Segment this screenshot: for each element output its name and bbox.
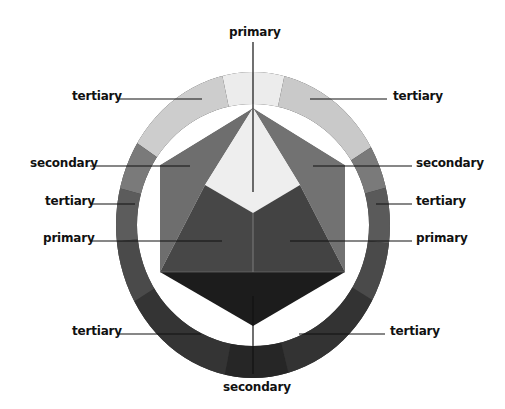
- label-bottom-left-tertiary: tertiary: [72, 324, 122, 338]
- label-left-primary: primary: [43, 231, 95, 245]
- label-top-left-tertiary: tertiary: [72, 89, 122, 103]
- label-bottom-right-tertiary: tertiary: [390, 324, 440, 338]
- label-right-primary: primary: [416, 231, 468, 245]
- label-right-tertiary: tertiary: [416, 194, 466, 208]
- label-left-secondary: secondary: [30, 156, 98, 170]
- label-top-right-tertiary: tertiary: [393, 89, 443, 103]
- label-left-tertiary: tertiary: [45, 194, 95, 208]
- label-bottom-secondary: secondary: [223, 380, 291, 394]
- label-right-secondary: secondary: [416, 156, 484, 170]
- label-top-primary: primary: [229, 25, 281, 39]
